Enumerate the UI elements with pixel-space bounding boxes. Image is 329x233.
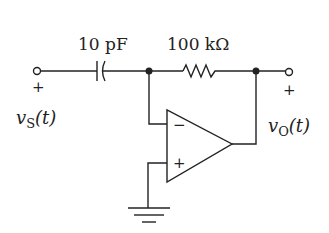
- circuit-diagram: 10 pF 100 kΩ − + + + vS(t) vO(t): [0, 0, 329, 233]
- wire-node-to-inverting: [149, 71, 167, 124]
- junction-dot-left: [146, 68, 153, 75]
- resistor-label: 100 kΩ: [167, 34, 229, 54]
- resistor-symbol: [183, 65, 218, 77]
- output-voltage-label: vO(t): [268, 115, 310, 139]
- input-polarity: +: [32, 78, 45, 96]
- wire-noninverting-to-ground: [148, 163, 167, 208]
- input-terminal: [34, 68, 41, 75]
- ground-symbol: [128, 208, 170, 222]
- opamp-inverting-sign: −: [173, 116, 186, 134]
- wire-opamp-output: [232, 71, 256, 144]
- junction-dot-right: [253, 68, 260, 75]
- input-voltage-label: vS(t): [16, 107, 56, 131]
- capacitor-label: 10 pF: [78, 34, 128, 54]
- output-polarity: +: [283, 81, 296, 99]
- output-terminal: [286, 69, 293, 76]
- opamp-noninverting-sign: +: [173, 154, 186, 172]
